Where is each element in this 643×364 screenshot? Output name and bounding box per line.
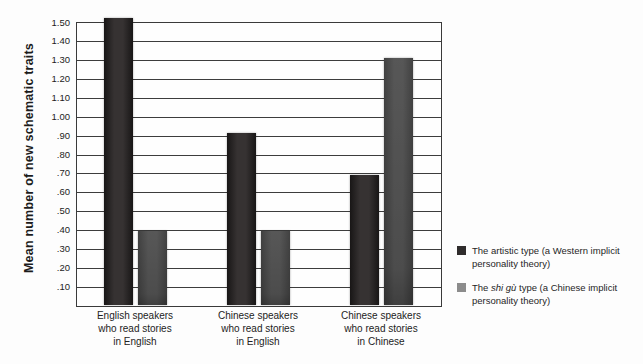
legend: The artistic type (a Western implicit pe… [457,244,637,318]
bar-shigu-group2 [261,231,290,305]
y-tick-label: 1.30 [0,54,70,65]
y-tick-label: .60 [0,186,70,197]
y-tick-label: 1.00 [0,111,70,122]
y-tick-label: .70 [0,167,70,178]
y-tick-label: .90 [0,130,70,141]
y-tick-label: .80 [0,149,70,160]
y-tick-label: .50 [0,205,70,216]
x-category-label-3: Chinese speakers who read stories in Chi… [316,309,446,348]
bar-artistic-group3 [350,175,379,305]
legend-item-artistic: The artistic type (a Western implicit pe… [457,244,637,270]
y-tick-label: 1.20 [0,73,70,84]
y-tick-label: .10 [0,281,70,292]
y-tick-label: 1.40 [0,35,70,46]
bar-artistic-group1 [104,18,133,305]
y-tick-label: .20 [0,262,70,273]
x-category-label-1: English speakers who read stories in Eng… [70,309,200,348]
legend-label-artistic: The artistic type (a Western implicit pe… [472,244,620,270]
bar-artistic-group2 [227,133,256,305]
legend-label-shigu: The shi gù type (a Chinese implicit pers… [472,281,617,307]
legend-swatch-shigu [457,283,466,292]
legend-item-shigu: The shi gù type (a Chinese implicit pers… [457,281,637,307]
bar-shigu-group3 [384,58,413,305]
bar-chart-figure: Mean number of new schematic traits .10.… [0,0,643,364]
y-tick-label: 1.10 [0,92,70,103]
x-category-label-2: Chinese speakers who read stories in Eng… [193,309,323,348]
legend-swatch-artistic [457,246,466,255]
bar-shigu-group1 [138,231,167,305]
y-tick-label: .30 [0,243,70,254]
y-tick-label: 1.50 [0,17,70,28]
y-tick-label: .40 [0,224,70,235]
